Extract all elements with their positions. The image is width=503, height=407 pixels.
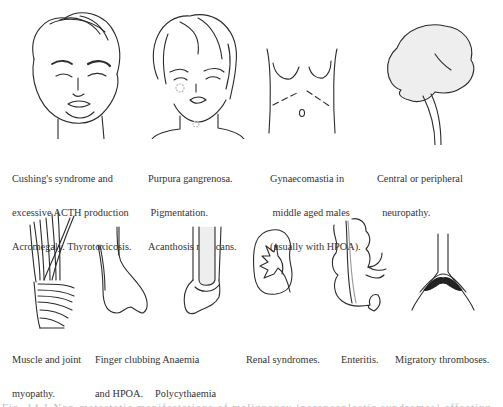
face-pigmentation-icon <box>140 4 250 139</box>
caption-line: Cushing's syndrome and <box>12 173 132 184</box>
chest-gynaecomastia-icon <box>265 45 345 135</box>
caption-finger-clubbing: Finger clubbing and HPOA. <box>95 331 161 407</box>
caption-line <box>395 388 489 396</box>
caption-thromboses: Migratory thromboses. DIC and digital is… <box>395 331 489 407</box>
caption-line: Gynaecomastia in <box>270 173 361 184</box>
bone-marrow-icon <box>183 225 223 320</box>
caption-line: Renal syndromes. <box>246 354 320 365</box>
caption-line: and HPOA. <box>95 388 161 399</box>
brain-icon <box>383 20 483 145</box>
caption-line: Central or peripheral <box>377 173 463 184</box>
vessel-thrombosis-icon <box>410 232 480 312</box>
finger-clubbing-icon <box>95 225 155 320</box>
caption-line: Anaemia <box>155 354 245 365</box>
caption-line: Migratory thromboses. <box>395 354 489 365</box>
caption-renal: Renal syndromes. <box>246 331 320 377</box>
caption-line: Pigmentation. <box>148 207 237 218</box>
kidney-icon <box>252 226 307 306</box>
truncated-figure-caption: Fig. 14.1 Non-metastatic manifestations … <box>2 400 502 407</box>
face-cushing-icon <box>20 4 130 139</box>
caption-line: Purpura gangrenosa. <box>148 173 237 184</box>
caption-anaemia: Anaemia Polycythaemia Bone marrow aplasi… <box>155 331 245 407</box>
caption-line: Finger clubbing <box>95 354 161 365</box>
caption-line: Polycythaemia <box>155 388 245 399</box>
caption-line: Enteritis. <box>326 354 391 365</box>
caption-enteritis: Enteritis. Duodenal ulcer. <box>326 331 391 407</box>
intestine-icon <box>330 215 395 315</box>
muscle-joint-icon <box>22 210 77 330</box>
caption-line: Fig. 14.1 Non-metastatic manifestations … <box>2 402 502 407</box>
caption-line <box>326 388 391 396</box>
